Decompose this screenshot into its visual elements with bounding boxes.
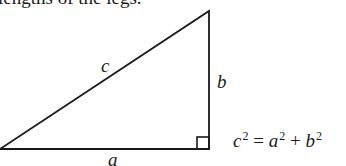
eq-equals: = — [253, 130, 264, 151]
eq-plus: + — [290, 130, 301, 151]
eq-term1: a — [269, 130, 279, 151]
eq-term2-exp: 2 — [316, 129, 322, 143]
eq-term2: b — [305, 130, 315, 151]
eq-lhs-exp: 2 — [242, 129, 248, 143]
pythagorean-equation: c2 = a2 + b2 — [233, 129, 322, 152]
eq-lhs: c — [233, 130, 241, 151]
eq-term1-exp: 2 — [279, 129, 285, 143]
hypotenuse-label: c — [101, 56, 109, 75]
right-angle-marker — [197, 137, 209, 149]
horizontal-leg-label: a — [108, 150, 118, 166]
vertical-leg-label: b — [217, 72, 227, 91]
triangle-outline — [0, 11, 209, 149]
